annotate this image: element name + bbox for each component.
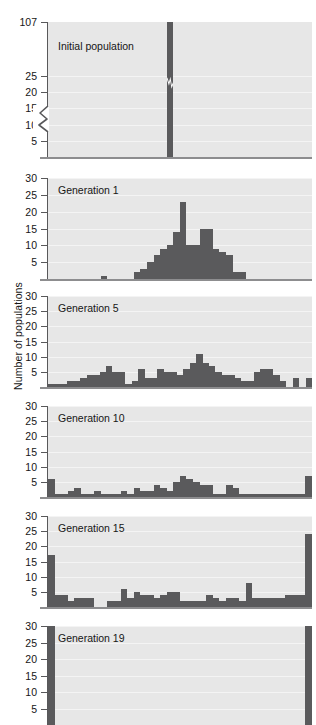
histogram-bar <box>252 598 259 607</box>
histogram-bar <box>193 245 200 279</box>
histogram-bar <box>127 598 134 607</box>
y-axis-tick-label: 25 <box>25 306 37 317</box>
histogram-bar <box>299 595 306 607</box>
y-axis-tick-label: 10 <box>25 351 37 362</box>
y-axis-tick <box>41 436 48 437</box>
y-axis-tick-label: 20 <box>25 654 37 665</box>
histogram-panel: 51015202530Generation 5 <box>0 296 316 394</box>
histogram-bar <box>206 595 213 607</box>
y-axis: 510152025107 <box>40 22 48 157</box>
panel-title: Initial population <box>58 40 134 52</box>
y-axis-tick <box>41 76 48 77</box>
histogram-panel: 51015202530Generation 1 <box>0 178 316 286</box>
y-axis-tick <box>41 562 48 563</box>
histogram-bar <box>173 592 180 607</box>
y-axis-tick <box>41 452 48 453</box>
y-axis-tick-label: 5 <box>31 257 37 268</box>
y-axis-tick <box>41 546 48 547</box>
histogram-bar <box>154 598 161 607</box>
y-axis-tick <box>41 92 48 93</box>
y-axis-tick <box>41 482 48 483</box>
panel-title: Generation 15 <box>58 522 125 534</box>
y-axis-tick-label: 25 <box>25 71 37 82</box>
y-axis-tick <box>41 516 48 517</box>
y-axis-tick <box>41 326 48 327</box>
histogram-bar <box>121 589 128 607</box>
histogram-bar <box>173 482 180 497</box>
histogram-bar <box>186 245 193 279</box>
y-axis-tick <box>41 626 48 627</box>
y-axis: 51015202530 <box>40 178 48 279</box>
y-axis-tick <box>41 577 48 578</box>
y-axis-tick-label: 25 <box>25 637 37 648</box>
y-axis-tick-label: 10 <box>25 571 37 582</box>
y-axis-tick <box>41 709 48 710</box>
histogram-bar <box>206 485 213 497</box>
histogram-bar <box>233 488 240 497</box>
histogram-bar <box>173 232 180 279</box>
baseline-axis <box>40 157 312 159</box>
y-axis-tick <box>41 467 48 468</box>
y-axis-tick <box>41 229 48 230</box>
histogram-bar <box>206 229 213 280</box>
y-axis-tick <box>41 692 48 693</box>
baseline-axis <box>40 497 312 499</box>
y-axis-tick <box>41 141 48 142</box>
histogram-bar <box>160 488 167 497</box>
histogram-bar <box>213 598 220 607</box>
y-axis-tick <box>41 22 48 23</box>
y-axis-tick-label: 30 <box>25 511 37 522</box>
y-axis-tick-label: 20 <box>25 87 37 98</box>
histogram-bar <box>134 272 141 279</box>
histogram-bar <box>259 598 266 607</box>
baseline-axis <box>40 607 312 609</box>
bar-break-marker <box>167 76 174 90</box>
y-axis-tick <box>41 311 48 312</box>
y-axis-tick <box>41 296 48 297</box>
histogram-panel: 51015202530Generation 15 <box>0 516 316 614</box>
histogram-bar <box>55 595 62 607</box>
histogram-panel: 51015202530Generation 19 <box>0 626 316 725</box>
histogram-bar <box>154 255 161 279</box>
histogram-bar <box>292 595 299 607</box>
histogram-bar <box>293 378 299 387</box>
y-axis: 51015202530 <box>40 296 48 387</box>
histogram-panel: 51015202530Generation 10 <box>0 406 316 504</box>
y-axis-tick <box>41 195 48 196</box>
y-axis-tick-label: 15 <box>25 446 37 457</box>
histogram-bar <box>200 229 207 280</box>
histogram-bar <box>61 595 68 607</box>
panel-title: Generation 19 <box>58 632 125 644</box>
y-axis-tick <box>41 643 48 644</box>
y-axis-tick-label: 10 <box>25 687 37 698</box>
y-axis-tick <box>41 212 48 213</box>
y-axis-tick-label: 25 <box>25 526 37 537</box>
y-axis-tick <box>41 659 48 660</box>
population-histogram-figure: Number of populations 510152025107Initia… <box>0 0 316 725</box>
histogram-bar <box>186 479 193 497</box>
histogram-bar <box>180 202 187 279</box>
y-axis-tick <box>41 357 48 358</box>
histogram-bar <box>272 598 279 607</box>
y-axis-tick-label: 20 <box>25 321 37 332</box>
histogram-bar <box>246 583 253 607</box>
histogram-panel: 510152025107Initial population <box>0 22 316 164</box>
y-axis: 51015202530 <box>40 626 48 725</box>
y-axis-tick-label: 30 <box>25 621 37 632</box>
histogram-bar <box>167 22 174 157</box>
y-axis-tick-label: 25 <box>25 190 37 201</box>
axis-break-marker <box>33 106 49 132</box>
histogram-bar <box>305 476 312 497</box>
y-axis-tick <box>41 406 48 407</box>
y-axis-tick <box>41 676 48 677</box>
histogram-bar <box>219 252 226 279</box>
histogram-bar <box>134 488 141 497</box>
y-axis-tick-label: 5 <box>31 136 37 147</box>
histogram-bar <box>167 245 174 279</box>
histogram-bar <box>134 592 141 607</box>
y-axis-tick-label: 15 <box>25 336 37 347</box>
y-axis-tick-label: 15 <box>25 223 37 234</box>
histogram-bar <box>226 598 233 607</box>
y-axis-tick-label: 107 <box>19 17 37 28</box>
histogram-bar <box>167 592 174 607</box>
